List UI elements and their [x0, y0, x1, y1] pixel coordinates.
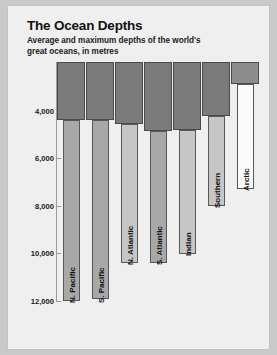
bar-average-indian: [173, 62, 201, 130]
ocean-depths-bar-chart: 4,000 6,000 8,000 10,000 12,000 N. Pacif…: [8, 6, 269, 349]
y-axis-tick-label-10000: 10,000: [10, 249, 54, 258]
chart-card: The Ocean Depths Average and maximum dep…: [8, 6, 269, 349]
y-axis-tick-label-6000: 6,000: [10, 154, 54, 163]
y-axis-tick-label-10000-wrap: 10,000: [8, 249, 54, 259]
bar-average-s-pacific: [86, 62, 114, 120]
category-label-indian: Indian: [184, 232, 193, 256]
category-label-n-atlantic: N. Atlantic: [126, 226, 135, 265]
category-label-arctic: Arctic: [242, 168, 251, 191]
category-label-s-atlantic: S. Atlantic: [155, 226, 164, 265]
y-axis-tick-label-8000: 8,000: [10, 202, 54, 211]
y-axis-tick-label-6000-wrap: 6,000: [8, 154, 54, 164]
y-axis-tick-12000: [56, 301, 61, 302]
y-axis-tick-8000: [56, 206, 61, 207]
category-label-n-pacific: N. Pacific: [68, 267, 77, 303]
y-axis-tick-label-12000: 12,000: [10, 297, 54, 306]
bar-average-arctic: [231, 62, 259, 84]
y-axis-tick-label-12000-wrap: 12,000: [8, 297, 54, 307]
y-axis-tick-10000: [56, 253, 61, 254]
y-axis-tick-label-4000: 4,000: [10, 107, 54, 116]
y-axis-tick-label-8000-wrap: 8,000: [8, 202, 54, 212]
bar-average-n-pacific: [57, 62, 85, 120]
bar-average-s-atlantic: [144, 62, 172, 131]
category-label-s-pacific: S. Pacific: [97, 267, 106, 303]
bar-average-n-atlantic: [115, 62, 143, 124]
y-axis-tick-6000: [56, 158, 61, 159]
category-label-southern: Southern: [213, 173, 222, 208]
bar-average-southern: [202, 62, 230, 116]
y-axis-tick-label-4000-wrap: 4,000: [8, 107, 54, 117]
